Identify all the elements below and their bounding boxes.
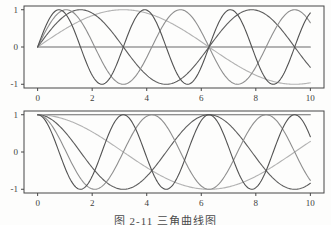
x-tick-label: 8 (254, 198, 259, 208)
x-tick-label: 6 (199, 198, 204, 208)
y-tick-label: -1 (11, 79, 19, 89)
x-tick-label: 0 (35, 93, 40, 103)
x-tick-label: 8 (254, 93, 259, 103)
y-tick-label: 0 (14, 147, 19, 157)
y-tick-label: 1 (14, 110, 19, 120)
x-tick-label: 2 (90, 93, 95, 103)
x-tick-label: 10 (306, 198, 316, 208)
series-cos(1.0x) (38, 115, 311, 190)
sine-subplot-chart: 024681010-1 (0, 0, 331, 105)
series-cos(2.0x) (38, 115, 311, 190)
y-tick-label: 0 (14, 42, 19, 52)
x-tick-label: 10 (306, 93, 316, 103)
x-tick-label: 6 (199, 93, 204, 103)
y-tick-label: 1 (14, 5, 19, 15)
figure-caption: 图 2-11 三角曲线图 (0, 215, 331, 225)
series-cos(1.5x) (38, 115, 311, 190)
x-tick-label: 2 (90, 198, 95, 208)
y-tick-label: -1 (11, 184, 19, 194)
x-tick-label: 0 (35, 198, 40, 208)
x-tick-label: 4 (144, 198, 149, 208)
x-tick-label: 4 (144, 93, 149, 103)
trig-figure: 024681010-1 024681010-1 图 2-11 三角曲线图 (0, 0, 331, 225)
series-cos(0.5x) (38, 115, 311, 190)
cosine-subplot-chart: 024681010-1 (0, 105, 331, 212)
